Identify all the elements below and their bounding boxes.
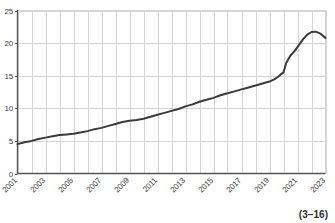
grid-lines (18, 11, 327, 174)
y-tick-label: 20 (5, 39, 14, 48)
x-tick-label: 2023 (309, 176, 328, 195)
x-tick-label: 2005 (57, 176, 76, 195)
x-tick-label: 2017 (225, 176, 244, 195)
x-tick-label: 2015 (197, 176, 216, 195)
x-tick-label: 2019 (253, 176, 272, 195)
x-tick-label: 2013 (169, 176, 188, 195)
x-tick-label: 2003 (29, 176, 48, 195)
chart-figure: 0510152025 20012003200520072009201120132… (0, 0, 335, 223)
axis-lines (15, 10, 326, 175)
figure-caption: (3−16) (299, 209, 328, 220)
x-tick-label: 2007 (85, 176, 104, 195)
x-tick-label: 2011 (141, 176, 159, 194)
y-tick-label: 10 (5, 104, 14, 113)
y-tick-label: 15 (5, 72, 14, 81)
x-tick-label: 2001 (1, 176, 20, 195)
series-line (18, 32, 326, 144)
data-series-line (18, 32, 326, 144)
line-chart-plot: 0510152025 20012003200520072009201120132… (0, 0, 335, 223)
y-tick-label: 25 (5, 7, 14, 16)
x-tick-label: 2009 (113, 176, 132, 195)
y-tick-label: 5 (9, 137, 14, 146)
y-axis-tick-labels: 0510152025 (5, 7, 14, 179)
x-axis-tick-labels: 2001200320052007200920112013201520172019… (1, 176, 328, 195)
x-tick-label: 2021 (281, 176, 300, 195)
